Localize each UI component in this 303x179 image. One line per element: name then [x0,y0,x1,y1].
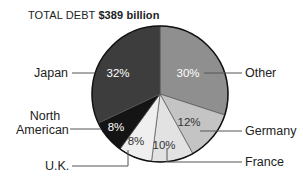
leader-uk [72,150,128,166]
pct-uk: 8% [128,135,145,147]
pct-north-american: 8% [108,121,125,133]
pie-chart: 30% 12% 10% 8% 8% 32% [0,0,303,179]
label-american: American [16,123,69,137]
label-germany: Germany [245,124,296,138]
label-other: Other [245,66,276,80]
label-north: North [24,109,66,123]
pct-other: 30% [176,67,199,79]
pct-france: 10% [152,139,175,151]
label-france: France [245,155,284,169]
label-japan: Japan [34,66,68,80]
pct-japan: 32% [106,67,129,79]
pct-germany: 12% [177,116,200,128]
label-uk: U.K. [45,159,69,173]
